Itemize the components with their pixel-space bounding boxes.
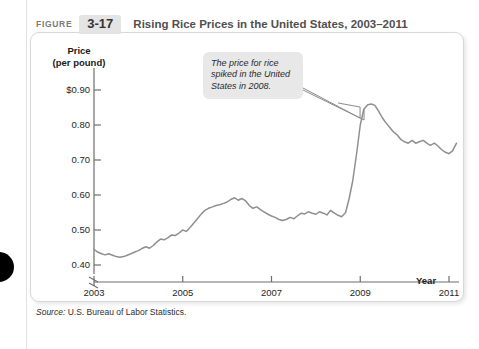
y-tick-label: 0.60 [42,189,90,200]
x-tick-label: 2009 [338,287,382,298]
annotation-callout: The price for rice spiked in the United … [203,52,303,99]
chart-panel: Price(per pound) Year 0.400.500.600.700.… [30,32,464,302]
x-axis-title: Year [416,275,436,287]
y-axis-title-line2: (per pound) [39,57,119,69]
y-tick-label: 0.70 [42,154,90,165]
figure-header: FIGURE 3-17 Rising Rice Prices in the Un… [36,14,408,34]
source-text: U.S. Bureau of Labor Statistics. [65,307,186,317]
x-tick-label: 2011 [427,287,471,298]
y-axis-title-line1: Price [39,45,119,57]
figure-number-badge: 3-17 [79,15,121,34]
y-axis-title: Price(per pound) [39,45,119,69]
page-edge-dot [0,252,14,282]
x-tick-label: 2007 [250,287,294,298]
page-title: Rising Rice Prices in the United States,… [133,18,407,30]
y-tick-label: 0.40 [42,259,90,270]
y-tick-label: 0.80 [42,119,90,130]
axis-group [89,68,459,288]
source-note: Source: U.S. Bureau of Labor Statistics. [36,307,186,317]
x-tick-label: 2003 [72,287,116,298]
source-label: Source: [36,307,65,317]
page-edge-rule [26,0,27,349]
callout-leader-line [303,88,364,120]
x-tick-label: 2005 [161,287,205,298]
y-tick-label: 0.50 [42,224,90,235]
data-series-group [94,104,457,257]
y-tick-label: $0.90 [42,84,90,95]
figure-label: FIGURE [36,19,72,29]
annotation-text: The price for rice spiked in the United … [211,58,295,92]
